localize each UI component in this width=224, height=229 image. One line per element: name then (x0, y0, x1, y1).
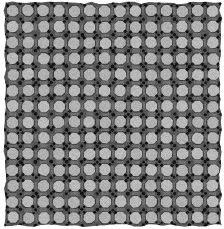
lattice-image-figure: Periodic truncated-square-tiling lattice… (0, 0, 224, 229)
lattice-pattern-canvas (0, 0, 224, 229)
